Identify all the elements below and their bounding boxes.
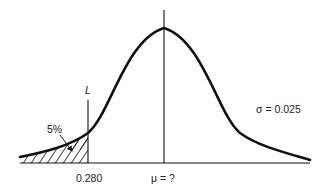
normal-distribution-figure: L 5% 0.280 μ = ? σ = 0.025 bbox=[0, 0, 328, 195]
mean-label: μ = ? bbox=[151, 172, 175, 184]
limit-value-label: 0.280 bbox=[76, 172, 102, 184]
sigma-label: σ = 0.025 bbox=[256, 103, 301, 115]
tail-area-label: 5% bbox=[47, 123, 62, 135]
limit-line-label: L bbox=[85, 84, 91, 96]
